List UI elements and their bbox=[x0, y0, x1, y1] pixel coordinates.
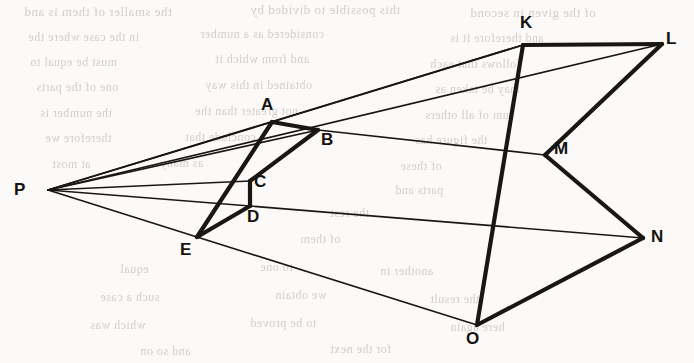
ray-pe bbox=[48, 190, 197, 237]
vertex-label-n: N bbox=[651, 228, 663, 245]
edge-mn bbox=[545, 155, 643, 238]
ray-bm bbox=[318, 130, 545, 155]
ray-pa bbox=[48, 122, 272, 190]
vertex-label-d: D bbox=[247, 208, 259, 225]
ray-ak bbox=[272, 45, 523, 122]
vertex-label-l: L bbox=[666, 30, 676, 47]
thin-edge-group bbox=[48, 44, 662, 325]
vertex-label-e: E bbox=[180, 241, 191, 258]
edge-kl bbox=[523, 44, 662, 45]
vertex-label-a: A bbox=[261, 96, 273, 113]
vertex-label-k: K bbox=[520, 14, 532, 31]
ray-pl bbox=[48, 44, 662, 190]
line-diagram bbox=[0, 0, 694, 363]
ray-dn bbox=[250, 206, 643, 238]
edge-no bbox=[477, 238, 643, 325]
vertex-label-o: O bbox=[466, 330, 479, 347]
vertex-label-m: M bbox=[554, 140, 568, 157]
vertex-label-b: B bbox=[321, 131, 333, 148]
vertex-label-c: C bbox=[254, 173, 266, 190]
thick-edge-group bbox=[197, 44, 662, 325]
ray-eo bbox=[197, 237, 477, 325]
figure-canvas: the smaller of them is andthis possible … bbox=[0, 0, 694, 363]
vertex-label-p: P bbox=[14, 181, 25, 198]
edge-ab bbox=[272, 122, 318, 130]
